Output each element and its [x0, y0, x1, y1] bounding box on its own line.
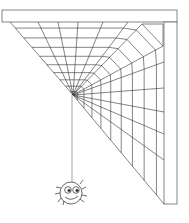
spider-web: [10, 22, 164, 204]
right-post: [164, 22, 177, 204]
top-beam: [2, 10, 177, 22]
corner-brace: [142, 24, 163, 46]
spider: [55, 180, 87, 205]
spider-body: [60, 182, 82, 204]
spider-web-illustration: [0, 0, 189, 223]
